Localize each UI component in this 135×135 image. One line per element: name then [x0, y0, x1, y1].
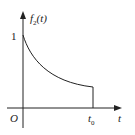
- y-axis-label: f2(t): [30, 12, 47, 27]
- x-axis-label: t: [118, 112, 122, 124]
- function-graph: f2(t) 1 O t0 t: [0, 0, 135, 135]
- y-axis-arrow-icon: [20, 11, 26, 19]
- y-tick-label: 1: [11, 30, 17, 42]
- decay-curve: [23, 35, 93, 87]
- origin-label: O: [10, 112, 18, 124]
- x-tick-label: t0: [88, 112, 95, 127]
- x-axis-arrow-icon: [114, 105, 122, 111]
